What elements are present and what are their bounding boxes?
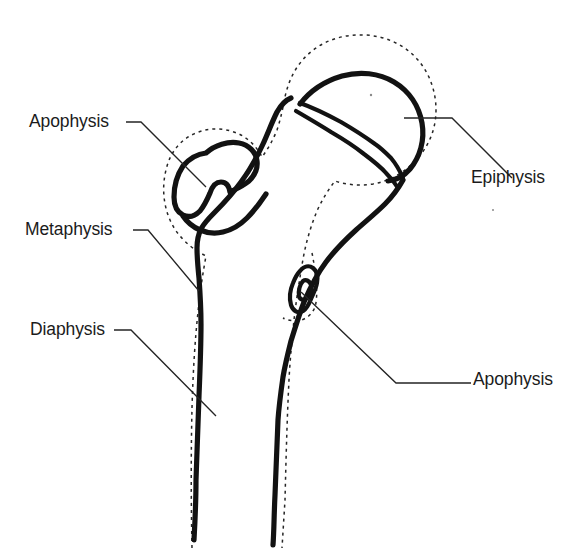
physis-growth-plate-superior xyxy=(300,103,403,178)
femur-diagram: Apophysis Metaphysis Diaphysis Epiphysis… xyxy=(0,0,581,548)
label-apophysis-lesser-trochanter: Apophysis xyxy=(473,371,553,389)
leader-apophysis-lesser xyxy=(301,292,471,383)
leader-metaphysis xyxy=(133,230,199,291)
label-diaphysis: Diaphysis xyxy=(30,321,105,339)
label-metaphysis: Metaphysis xyxy=(25,221,113,239)
femoral-head-epiphysis xyxy=(300,73,423,181)
medial-cortex-neck-and-shaft xyxy=(273,180,403,545)
label-apophysis-greater-trochanter: Apophysis xyxy=(29,113,109,131)
ink-speck-secondary xyxy=(492,209,494,211)
ink-speck xyxy=(370,94,372,96)
femur-illustration xyxy=(0,0,581,548)
label-epiphysis: Epiphysis xyxy=(471,169,545,187)
